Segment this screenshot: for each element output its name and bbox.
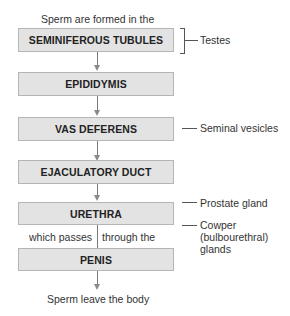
box-vas-deferens: VAS DEFERENS — [18, 117, 174, 141]
arrow-line — [97, 271, 98, 285]
label-prostate-gland: Prostate gland — [200, 197, 268, 209]
box-label: SEMINIFEROUS TUBULES — [29, 34, 163, 46]
box-urethra: URETHRA — [18, 202, 174, 225]
box-ejaculatory-duct: EJACULATORY DUCT — [18, 160, 174, 184]
box-penis: PENIS — [18, 248, 174, 271]
arrow-line — [97, 96, 98, 111]
box-label: URETHRA — [70, 208, 122, 220]
box-label: EPIDIDYMIS — [65, 78, 127, 90]
box-label: EJACULATORY DUCT — [41, 166, 152, 178]
arrow-line — [97, 52, 98, 66]
testes-bracket — [180, 28, 185, 54]
box-epididymis: EPIDIDYMIS — [18, 72, 174, 96]
arrow-down-icon — [94, 110, 100, 116]
top-caption: Sperm are formed in the — [41, 13, 154, 25]
prostate-leader-line — [182, 202, 197, 203]
label-testes: Testes — [200, 34, 230, 46]
label-cowper-line2: (bulbourethral) — [200, 231, 268, 243]
arrow-down-icon — [94, 195, 100, 201]
connector-right-text: through the — [102, 231, 155, 243]
box-label: PENIS — [80, 254, 112, 266]
seminal-vesicles-leader-line — [182, 128, 197, 129]
connector-line — [97, 225, 98, 249]
testes-leader-line — [185, 40, 198, 41]
label-seminal-vesicles: Seminal vesicles — [200, 122, 278, 134]
connector-left-text: which passes — [29, 231, 92, 243]
box-seminiferous-tubules: SEMINIFEROUS TUBULES — [18, 28, 174, 52]
box-label: VAS DEFERENS — [55, 123, 137, 135]
arrow-down-icon — [94, 284, 100, 290]
cowper-leader-line — [182, 225, 197, 226]
label-cowper-line1: Cowper — [200, 219, 236, 231]
label-cowper-line3: glands — [200, 243, 231, 255]
bottom-caption: Sperm leave the body — [47, 293, 149, 305]
arrow-down-icon — [94, 65, 100, 71]
arrow-line — [97, 141, 98, 156]
